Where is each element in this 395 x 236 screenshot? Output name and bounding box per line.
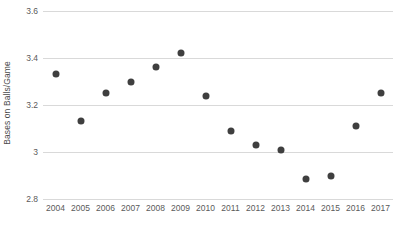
data-point bbox=[302, 176, 309, 183]
x-tick-label: 2009 bbox=[171, 203, 190, 213]
x-tick-label: 2010 bbox=[196, 203, 215, 213]
x-axis-tick-labels: 2004200520062007200820092010201120122013… bbox=[43, 201, 393, 217]
data-point bbox=[277, 146, 284, 153]
gridline-3 bbox=[43, 152, 393, 153]
y-axis-title: Bases on Balls/Game bbox=[0, 0, 14, 205]
x-tick-label: 2012 bbox=[246, 203, 265, 213]
gridline-3.2 bbox=[43, 105, 393, 106]
scatter-chart: Bases on Balls/Game 3.63.43.232.8 200420… bbox=[0, 0, 395, 236]
data-point bbox=[252, 141, 259, 148]
x-tick-label: 2006 bbox=[96, 203, 115, 213]
data-point bbox=[52, 71, 59, 78]
x-tick-label: 2005 bbox=[71, 203, 90, 213]
data-point bbox=[177, 50, 184, 57]
x-tick-label: 2004 bbox=[46, 203, 65, 213]
gridline-2.8 bbox=[43, 199, 393, 200]
y-tick-label: 3 bbox=[33, 147, 38, 157]
y-tick-label: 2.8 bbox=[26, 194, 38, 204]
y-axis-title-text: Bases on Balls/Game bbox=[2, 61, 12, 145]
data-point bbox=[127, 78, 134, 85]
data-point bbox=[102, 90, 109, 97]
gridline-3.6 bbox=[43, 11, 393, 12]
y-tick-label: 3.2 bbox=[26, 100, 38, 110]
data-point bbox=[227, 127, 234, 134]
x-tick-label: 2013 bbox=[271, 203, 290, 213]
x-tick-label: 2008 bbox=[146, 203, 165, 213]
data-point bbox=[202, 92, 209, 99]
gridline-3.4 bbox=[43, 58, 393, 59]
bottom-caption bbox=[0, 228, 395, 236]
data-point bbox=[77, 118, 84, 125]
plot-area bbox=[43, 0, 393, 200]
data-point bbox=[352, 123, 359, 130]
x-tick-label: 2011 bbox=[221, 203, 239, 213]
y-axis-tick-labels: 3.63.43.232.8 bbox=[14, 0, 41, 236]
x-tick-label: 2017 bbox=[371, 203, 390, 213]
y-tick-label: 3.4 bbox=[26, 53, 38, 63]
y-tick-label: 3.6 bbox=[26, 6, 38, 16]
x-tick-label: 2015 bbox=[321, 203, 340, 213]
data-point bbox=[327, 172, 334, 179]
x-tick-label: 2016 bbox=[346, 203, 365, 213]
x-tick-label: 2014 bbox=[296, 203, 315, 213]
data-point bbox=[152, 64, 159, 71]
x-tick-label: 2007 bbox=[121, 203, 140, 213]
data-point bbox=[377, 90, 384, 97]
